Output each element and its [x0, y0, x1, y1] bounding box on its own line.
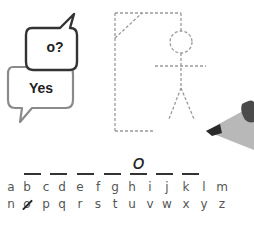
letter-q[interactable]: q	[55, 197, 69, 211]
letter-j[interactable]: j	[160, 180, 174, 194]
alphabet-row-2: n o p q r s t u v w x y z	[0, 197, 254, 213]
hangman-figure	[155, 31, 206, 119]
letter-m[interactable]: m	[215, 180, 229, 194]
letter-u[interactable]: u	[125, 197, 139, 211]
letter-c[interactable]: c	[39, 180, 53, 194]
letter-l[interactable]: l	[197, 180, 211, 194]
letter-s[interactable]: s	[91, 197, 105, 211]
letter-v[interactable]: v	[143, 197, 157, 211]
letter-w[interactable]: w	[160, 197, 174, 211]
word-blanks: o	[22, 150, 212, 180]
letter-p[interactable]: p	[39, 197, 53, 211]
figure-head	[170, 31, 192, 53]
letter-n[interactable]: n	[4, 197, 18, 211]
letter-t[interactable]: t	[108, 197, 122, 211]
letter-x[interactable]: x	[179, 197, 193, 211]
answer-bubble-text: Yes	[25, 80, 57, 96]
pencil-icon	[206, 100, 254, 150]
letter-o-guessed[interactable]: o	[20, 197, 34, 211]
letter-a[interactable]: a	[4, 180, 18, 194]
figure-right-leg	[181, 88, 194, 119]
letter-z[interactable]: z	[215, 197, 229, 211]
letter-d[interactable]: d	[55, 180, 69, 194]
alphabet-row-1: a b c d e f g h i j k l m	[0, 180, 254, 196]
letter-g[interactable]: g	[108, 180, 122, 194]
letter-b[interactable]: b	[20, 180, 34, 194]
letter-f[interactable]: f	[91, 180, 105, 194]
letter-r[interactable]: r	[73, 197, 87, 211]
letter-e[interactable]: e	[73, 180, 87, 194]
letter-i[interactable]: i	[143, 180, 157, 194]
letter-h[interactable]: h	[125, 180, 139, 194]
question-bubble-text: o?	[37, 39, 73, 55]
letter-y[interactable]: y	[197, 197, 211, 211]
figure-left-leg	[169, 88, 181, 119]
letter-k[interactable]: k	[179, 180, 193, 194]
